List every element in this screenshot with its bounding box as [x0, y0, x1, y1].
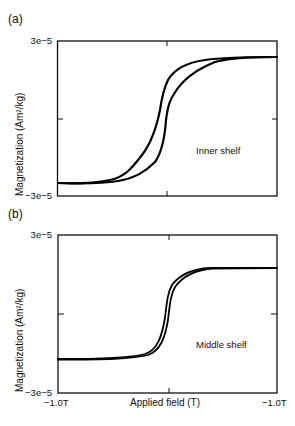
- panel-a-branch-descending: [58, 57, 277, 183]
- panel-b-curves: [58, 268, 277, 360]
- panel-a-branch-ascending: [58, 57, 277, 184]
- panel-b-axes: [58, 235, 277, 393]
- panel-a-curves: [58, 57, 277, 184]
- panel-b-branch-ascending: [58, 268, 277, 360]
- hysteresis-plots: [0, 0, 295, 426]
- panel-b-branch-descending: [58, 268, 277, 359]
